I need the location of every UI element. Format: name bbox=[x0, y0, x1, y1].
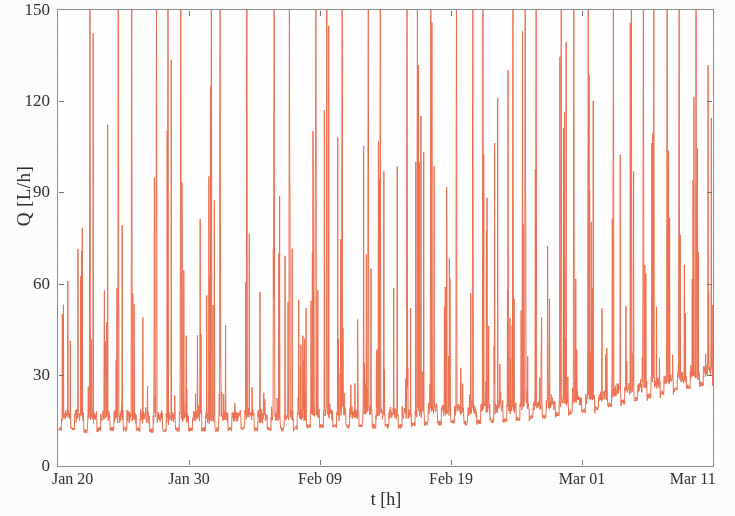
x-tick-label: Jan 20 bbox=[52, 470, 93, 488]
y-tick-label: 150 bbox=[4, 0, 50, 20]
y-tick-label: 60 bbox=[4, 274, 50, 294]
x-tick-mark bbox=[189, 11, 190, 16]
y-tick-label: 30 bbox=[4, 365, 50, 385]
y-tick-mark bbox=[707, 375, 712, 376]
x-tick-label: Feb 09 bbox=[298, 470, 342, 488]
x-tick-label: Jan 30 bbox=[168, 470, 209, 488]
x-tick-label: Mar 11 bbox=[670, 470, 716, 488]
discharge-line-series bbox=[58, 10, 713, 466]
x-tick-mark bbox=[320, 11, 321, 16]
x-tick-label: Mar 01 bbox=[559, 470, 606, 488]
y-tick-mark bbox=[59, 375, 64, 376]
x-tick-mark bbox=[582, 11, 583, 16]
discharge-trace-path bbox=[58, 10, 713, 433]
x-axis-title: t [h] bbox=[57, 489, 715, 510]
x-tick-mark bbox=[451, 460, 452, 465]
x-tick-mark bbox=[189, 460, 190, 465]
y-tick-mark bbox=[59, 192, 64, 193]
y-tick-mark bbox=[707, 284, 712, 285]
y-tick-mark bbox=[707, 101, 712, 102]
plot-area bbox=[57, 9, 714, 467]
y-tick-mark bbox=[59, 284, 64, 285]
x-tick-mark bbox=[451, 11, 452, 16]
x-tick-label: Feb 19 bbox=[429, 470, 473, 488]
y-axis-tick-labels: 1501209060300 bbox=[0, 0, 50, 516]
y-tick-label: 90 bbox=[4, 182, 50, 202]
y-tick-mark bbox=[707, 192, 712, 193]
flow-rate-time-series-figure: Q [L/h] 1501209060300 Jan 20Jan 30Feb 09… bbox=[0, 0, 735, 516]
y-tick-mark bbox=[59, 101, 64, 102]
x-tick-mark bbox=[582, 460, 583, 465]
x-tick-mark bbox=[320, 460, 321, 465]
y-tick-label: 120 bbox=[4, 91, 50, 111]
